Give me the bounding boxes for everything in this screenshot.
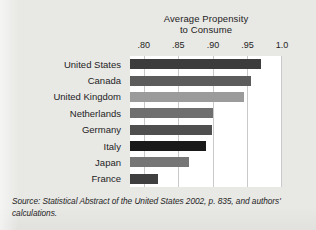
- category-label: Canada: [0, 72, 126, 88]
- bar[interactable]: [130, 59, 261, 69]
- chart-title-line-2: to Consume: [130, 24, 282, 35]
- bar-row: [130, 89, 282, 105]
- bar-row: [130, 56, 282, 72]
- x-tick-label: .80: [138, 40, 151, 51]
- plot-area: [130, 56, 282, 187]
- category-axis-labels: United StatesCanadaUnited KingdomNetherl…: [0, 56, 126, 187]
- bar-row: [130, 72, 282, 88]
- chart-title-line-1: Average Propensity: [130, 13, 282, 24]
- bar[interactable]: [130, 141, 206, 151]
- category-label: Germany: [0, 122, 126, 138]
- chart-title: Average Propensity to Consume: [130, 13, 282, 35]
- category-label: Italy: [0, 138, 126, 154]
- figure-container: Average Propensity to Consume .80.85.90.…: [0, 0, 316, 230]
- source-note: Source: Statistical Abstract of the Unit…: [12, 196, 304, 219]
- category-label: United Kingdom: [0, 89, 126, 105]
- bar-row: [130, 171, 282, 187]
- bar[interactable]: [130, 108, 213, 118]
- source-note-line-1: Source: Statistical Abstract of the Unit…: [12, 196, 281, 206]
- category-label: United States: [0, 56, 126, 72]
- bar-row: [130, 105, 282, 121]
- x-axis: .80.85.90.951.0: [130, 40, 282, 54]
- category-label: Japan: [0, 154, 126, 170]
- bar-row: [130, 154, 282, 170]
- bar-rows: [130, 56, 282, 187]
- bar-row: [130, 138, 282, 154]
- x-tick-label: .90: [207, 40, 220, 51]
- x-tick-label: 1.0: [276, 40, 289, 51]
- category-label: Netherlands: [0, 105, 126, 121]
- category-label: France: [0, 171, 126, 187]
- bar[interactable]: [130, 157, 189, 167]
- bar-row: [130, 122, 282, 138]
- bar[interactable]: [130, 174, 158, 184]
- x-tick-label: .85: [172, 40, 185, 51]
- bar[interactable]: [130, 92, 244, 102]
- bar[interactable]: [130, 76, 251, 86]
- source-note-line-2: calculations.: [12, 208, 57, 218]
- bar[interactable]: [130, 125, 212, 135]
- x-tick-label: .95: [241, 40, 254, 51]
